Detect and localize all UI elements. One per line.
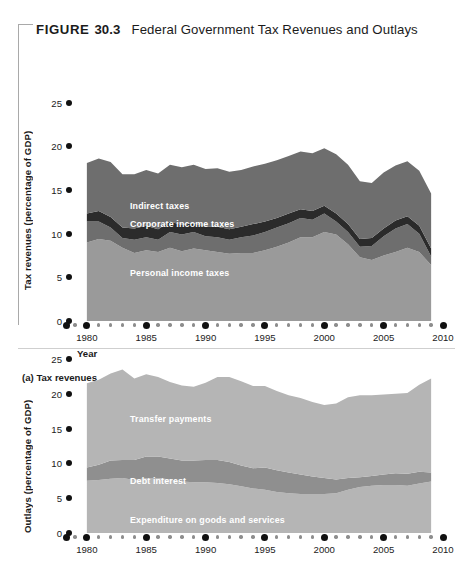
x-axis-minor-dot bbox=[97, 323, 100, 326]
x-axis-minor-dot bbox=[394, 323, 397, 326]
x-axis-minor-dot bbox=[239, 535, 242, 538]
x-axis-a bbox=[56, 321, 460, 329]
x-axis-minor-dot bbox=[358, 323, 361, 326]
series-label-corporate-income-taxes: Corporate income taxes bbox=[130, 219, 234, 229]
x-axis-minor-dot bbox=[168, 323, 171, 326]
x-axis-minor-dot bbox=[275, 323, 278, 326]
x-tick-label: 1990 bbox=[195, 332, 216, 343]
x-tick-label: 1995 bbox=[254, 332, 275, 343]
y-tick-label: 5 bbox=[57, 272, 62, 283]
series-label-indirect-taxes: Indirect taxes bbox=[130, 201, 189, 211]
x-axis-minor-dot bbox=[370, 535, 373, 538]
y-axis-labels-a: 0510152025 bbox=[38, 94, 62, 321]
x-axis-minor-dot bbox=[346, 535, 349, 538]
x-axis-minor-dot bbox=[311, 323, 314, 326]
y-tick-label: 20 bbox=[51, 388, 62, 399]
x-axis-major-dot bbox=[83, 322, 90, 329]
x-axis-major-dot bbox=[440, 322, 447, 329]
x-tick-label: 1990 bbox=[195, 544, 216, 555]
x-axis-minor-dot bbox=[228, 323, 231, 326]
x-axis-minor-dot bbox=[418, 323, 421, 326]
y-axis-title-b: Outlays (percentage of GDP) bbox=[22, 366, 33, 566]
x-axis-labels-a: 1980198519901995200020052010 bbox=[56, 332, 460, 346]
series-label-debt-interest: Debt interest bbox=[130, 476, 186, 486]
panel-outlays: Outlays (percentage of GDP) 0510152025 T… bbox=[0, 352, 473, 566]
x-axis-minor-dot bbox=[311, 535, 314, 538]
series-label-social-security-taxes: Social Security taxes bbox=[130, 148, 222, 158]
panel-tax-revenues: Tax revenues (percentage of GDP) 0510152… bbox=[0, 52, 473, 322]
series-label-expenditure-goods-services: Expenditure on goods and services bbox=[130, 515, 285, 525]
panel-divider bbox=[18, 348, 455, 349]
x-axis-minor-dot bbox=[251, 535, 254, 538]
figure-number: 30.3 bbox=[94, 22, 120, 37]
x-axis-minor-dot bbox=[334, 323, 337, 326]
x-tick-label: 2010 bbox=[432, 332, 453, 343]
y-tick-label: 10 bbox=[51, 228, 62, 239]
x-axis-minor-dot bbox=[334, 535, 337, 538]
x-axis-minor-dot bbox=[406, 323, 409, 326]
x-axis-minor-dot bbox=[239, 323, 242, 326]
x-axis-minor-dot bbox=[429, 535, 432, 538]
x-tick-label: 1980 bbox=[76, 544, 97, 555]
x-axis-minor-dot bbox=[168, 535, 171, 538]
y-tick-label: 5 bbox=[57, 493, 62, 504]
x-axis-minor-dot bbox=[133, 535, 136, 538]
figure-title-text: Federal Government Tax Revenues and Outl… bbox=[132, 22, 418, 37]
x-axis-minor-dot bbox=[216, 535, 219, 538]
x-axis-major-dot bbox=[261, 534, 268, 541]
x-axis-minor-dot bbox=[429, 323, 432, 326]
x-tick-label: 2000 bbox=[314, 544, 335, 555]
x-axis-minor-dot bbox=[251, 323, 254, 326]
series-label-transfer-payments: Transfer payments bbox=[130, 414, 211, 424]
x-axis-minor-dot bbox=[97, 535, 100, 538]
y-tick-label: 25 bbox=[51, 97, 62, 108]
x-axis-origin-dot bbox=[63, 322, 70, 329]
x-axis-major-dot bbox=[321, 322, 328, 329]
x-axis-minor-dot bbox=[418, 535, 421, 538]
x-axis-minor-dot bbox=[358, 535, 361, 538]
x-axis-minor-dot bbox=[406, 535, 409, 538]
x-axis-minor-dot bbox=[299, 323, 302, 326]
x-axis-minor-dot bbox=[299, 535, 302, 538]
x-axis-minor-dot bbox=[121, 535, 124, 538]
y-tick-dot bbox=[66, 187, 72, 193]
x-axis-minor-dot bbox=[192, 323, 195, 326]
x-axis-major-dot bbox=[380, 322, 387, 329]
x-axis-major-dot bbox=[202, 534, 209, 541]
y-tick-dot bbox=[66, 460, 72, 466]
y-tick-dot bbox=[66, 231, 72, 237]
x-axis-major-dot bbox=[321, 534, 328, 541]
x-axis-minor-dot bbox=[287, 535, 290, 538]
x-axis-b bbox=[56, 533, 460, 541]
x-axis-major-dot bbox=[440, 534, 447, 541]
x-axis-major-dot bbox=[143, 534, 150, 541]
y-tick-label: 15 bbox=[51, 423, 62, 434]
x-axis-labels-b: 1980198519901995200020052010 bbox=[56, 544, 460, 558]
y-tick-dot bbox=[66, 391, 72, 397]
x-axis-minor-dot bbox=[370, 323, 373, 326]
x-axis-major-dot bbox=[380, 534, 387, 541]
x-axis-minor-dot bbox=[180, 323, 183, 326]
x-axis-minor-dot bbox=[156, 535, 159, 538]
x-axis-minor-dot bbox=[121, 323, 124, 326]
x-tick-label: 2005 bbox=[373, 332, 394, 343]
y-tick-dot bbox=[66, 495, 72, 501]
x-tick-label: 1985 bbox=[136, 332, 157, 343]
y-tick-dot bbox=[66, 274, 72, 280]
y-tick-label: 10 bbox=[51, 458, 62, 469]
x-axis-major-dot bbox=[202, 322, 209, 329]
x-axis-minor-dot bbox=[109, 323, 112, 326]
x-axis-minor-dot bbox=[275, 535, 278, 538]
x-axis-minor-dot bbox=[192, 535, 195, 538]
x-axis-minor-dot bbox=[156, 323, 159, 326]
x-axis-origin-dot bbox=[63, 534, 70, 541]
outlays-area-chart bbox=[75, 352, 443, 533]
y-axis-labels-b: 0510152025 bbox=[38, 352, 62, 533]
x-axis-minor-dot bbox=[216, 323, 219, 326]
x-axis-minor-dot bbox=[73, 535, 76, 538]
x-axis-minor-dot bbox=[180, 535, 183, 538]
x-axis-minor-dot bbox=[109, 535, 112, 538]
figure-label: FIGURE bbox=[36, 22, 89, 37]
y-axis-title-a: Tax revenues (percentage of GDP) bbox=[22, 110, 33, 310]
y-tick-dot bbox=[66, 100, 72, 106]
